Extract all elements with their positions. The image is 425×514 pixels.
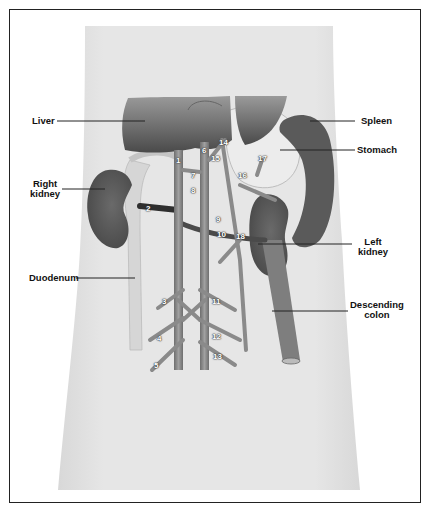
callout-18: 18 [236, 233, 245, 241]
liver-shape [122, 96, 232, 153]
callout-2: 2 [146, 205, 150, 213]
callout-1: 1 [176, 157, 180, 165]
label-right-kidney-line2: kidney [30, 189, 60, 199]
label-left-kidney: Left kidney [358, 237, 388, 257]
label-left-kidney-line2: kidney [358, 247, 388, 257]
label-spleen: Spleen [361, 116, 392, 126]
callout-11: 11 [212, 298, 220, 306]
callout-5: 5 [154, 362, 158, 370]
callout-10: 10 [217, 231, 226, 239]
label-duodenum: Duodenum [29, 273, 79, 283]
vessel-1 [174, 150, 183, 370]
label-right-kidney: Right kidney [30, 179, 60, 199]
anatomy-illustration [0, 0, 425, 514]
label-liver: Liver [32, 116, 55, 126]
callout-17: 17 [258, 155, 267, 163]
vessel-6 [200, 142, 209, 370]
callout-7: 7 [191, 172, 195, 180]
callout-4: 4 [157, 335, 161, 343]
label-stomach: Stomach [357, 145, 397, 155]
callout-13: 13 [213, 353, 222, 361]
callout-3: 3 [162, 298, 166, 306]
callout-14: 14 [219, 139, 228, 147]
callout-15: 15 [211, 155, 220, 163]
label-descending-colon-line2: colon [350, 310, 404, 320]
callout-6: 6 [202, 147, 206, 155]
callout-8: 8 [191, 187, 195, 195]
callout-12: 12 [212, 333, 221, 341]
callout-16: 16 [238, 172, 247, 180]
callout-9: 9 [216, 216, 220, 224]
label-descending-colon: Descending colon [350, 300, 404, 320]
